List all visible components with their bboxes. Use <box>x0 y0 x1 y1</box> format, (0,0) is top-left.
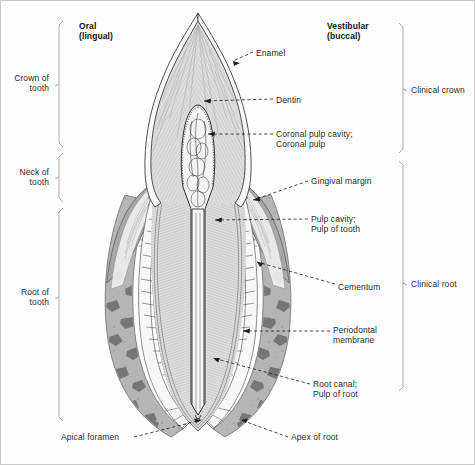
crown-of-tooth-line1: Crown of <box>1 73 49 84</box>
callout-label-gingival-margin: Gingival margin <box>311 176 372 187</box>
callout-label-dentin: Dentin <box>276 95 301 106</box>
pulp-cavity-line1: Pulp cavity; <box>311 214 356 225</box>
vestibular-heading-line1: Vestibular <box>327 21 369 32</box>
coronal-pulp-line1: Coronal pulp cavity; <box>276 129 353 140</box>
periodontal-line1: Periodontal <box>333 325 377 336</box>
periodontal-line2: membrane <box>333 335 374 346</box>
tooth-anatomy-illustration <box>1 1 475 465</box>
callout-label-apex-of-root: Apex of root <box>291 432 338 443</box>
root-of-tooth-line2: tooth <box>1 297 49 308</box>
root-of-tooth-line1: Root of <box>1 287 49 298</box>
callout-label-apical-foramen: Apical foramen <box>61 432 119 443</box>
root-canal-line1: Root canal; <box>313 379 357 390</box>
bracket-label-clinical-crown: Clinical crown <box>411 85 465 96</box>
figure-canvas: Oral (lingual) Vestibular (buccal) Crown… <box>0 0 475 465</box>
bracket-label-clinical-root: Clinical root <box>411 279 457 290</box>
coronal-pulp-line2: Coronal pulp <box>276 139 325 150</box>
root-canal <box>192 209 204 422</box>
oral-heading-line1: Oral <box>79 21 96 32</box>
callout-label-cementum: Cementum <box>338 282 380 293</box>
crown-of-tooth-line2: tooth <box>1 83 49 94</box>
root-canal-line2: Pulp of root <box>313 389 358 400</box>
neck-of-tooth-line1: Neck of <box>1 167 49 178</box>
callout-label-enamel: Enamel <box>256 48 285 59</box>
vestibular-heading-line2: (buccal) <box>327 31 360 42</box>
pulp-cavity-line2: Pulp of tooth <box>311 224 360 235</box>
oral-heading-line2: (lingual) <box>79 31 113 42</box>
neck-of-tooth-line2: tooth <box>1 177 49 188</box>
